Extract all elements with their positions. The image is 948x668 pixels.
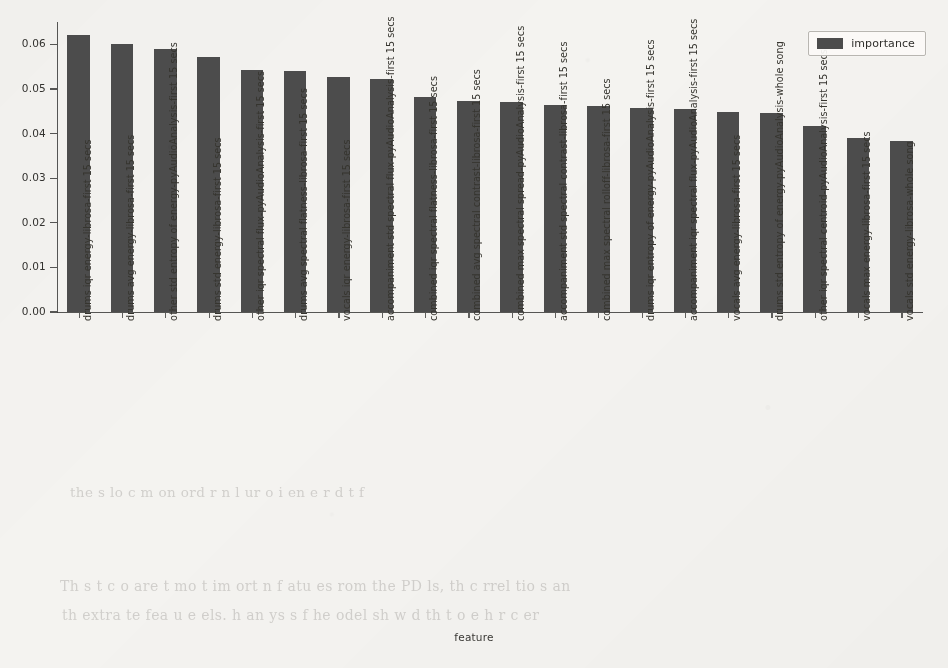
- x-tick-label: drums iqr entropy of energy-pyAudioAnaly…: [646, 39, 656, 321]
- x-tick-label: vocals iqr energy-librosa-first 15 secs: [342, 140, 352, 321]
- x-tick-label: vocals std energy-librosa-whole song: [905, 141, 915, 321]
- x-axis-labels: drums iqr energy-librosa-first 15 secsdr…: [0, 0, 948, 668]
- x-tick-label: vocals max energy-librosa-first 15 secs: [862, 131, 872, 321]
- x-tick-label: drums std entropy of energy-pyAudioAnaly…: [775, 41, 785, 321]
- x-tick-label: drums avg spectral flatness-librosa-firs…: [299, 88, 309, 321]
- x-tick-label: accompaniment iqr spectral flux-pyAudioA…: [689, 19, 699, 321]
- x-tick-label: other iqr spectral centroid-pyAudioAnaly…: [819, 49, 829, 321]
- x-tick-label: drums std energy-librosa-first 15 secs: [213, 137, 223, 321]
- x-tick-label: combined max spectral rolloff-librosa-fi…: [602, 78, 612, 321]
- bar-chart-figure: the s lo c m on ord r n l ur o i en e r …: [0, 0, 948, 668]
- chart-legend: importance: [808, 31, 926, 56]
- x-tick-label: drums iqr energy-librosa-first 15 secs: [83, 140, 93, 321]
- x-tick-label: drums avg energy-librosa-first 15 secs: [126, 135, 136, 321]
- x-tick-label: other iqr spectral flux-pyAudioAnalysis-…: [256, 71, 266, 321]
- x-tick-label: combined avg spectral contrast-librosa-f…: [472, 69, 482, 321]
- x-tick-label: combined max spectral spread-pyAudioAnal…: [516, 26, 526, 321]
- x-tick-label: accompaniment std spectral flux-pyAudioA…: [386, 16, 396, 321]
- x-tick-label: other std entropy of energy-pyAudioAnaly…: [169, 42, 179, 321]
- x-tick-label: vocals avg energy-librosa-first 15 secs: [732, 135, 742, 321]
- legend-swatch-importance: [817, 38, 843, 49]
- x-axis-title: feature: [0, 631, 948, 643]
- x-tick-label: accompaniment std spectral contrast-libr…: [559, 42, 569, 321]
- legend-label-importance: importance: [851, 37, 915, 50]
- x-tick-label: combined iqr spectral flatness-librosa-f…: [429, 76, 439, 321]
